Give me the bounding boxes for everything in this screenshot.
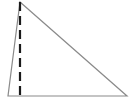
triangle-diagram xyxy=(0,0,129,99)
